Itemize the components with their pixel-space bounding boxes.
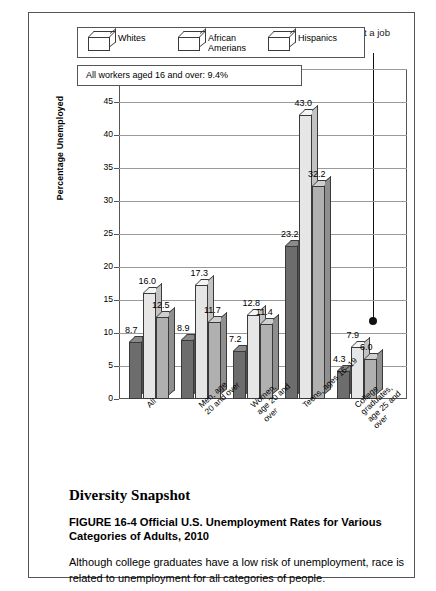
y-axis-tick-label: 45 bbox=[93, 96, 113, 106]
gridline bbox=[119, 102, 407, 103]
cube-side-face bbox=[290, 28, 296, 47]
section-title: Diversity Snapshot bbox=[69, 487, 429, 504]
y-axis-tick bbox=[114, 333, 119, 334]
bar-front-face bbox=[247, 315, 260, 399]
legend-swatch-cube bbox=[88, 37, 110, 51]
y-axis-tick bbox=[114, 300, 119, 301]
bar: 8.7 bbox=[129, 342, 142, 399]
overall-rate-note: All workers aged 16 and over: 9.4% bbox=[77, 65, 302, 86]
y-axis-tick-label: 40 bbox=[93, 129, 113, 139]
figure-title: FIGURE 16-4 Official U.S. Unemployment R… bbox=[69, 515, 429, 543]
gridline bbox=[119, 135, 407, 136]
y-axis-tick bbox=[114, 267, 119, 268]
y-axis-title: Percentage Unemployed bbox=[55, 88, 65, 208]
bar-value-label: 11.4 bbox=[256, 307, 273, 317]
bar-value-label: 17.3 bbox=[191, 268, 209, 278]
chart-legend: WhitesAfrican AmeriansHispanics bbox=[77, 27, 365, 58]
gridline bbox=[119, 234, 407, 235]
y-axis-tick-label: 10 bbox=[93, 327, 113, 337]
bar: 23.2 bbox=[285, 246, 298, 399]
cube-side-face bbox=[200, 28, 206, 47]
figure-body-text: Although college graduates have a low ri… bbox=[69, 555, 429, 586]
bar-value-label: 6.0 bbox=[360, 342, 373, 352]
cube-front-face bbox=[268, 37, 290, 51]
gridline bbox=[119, 201, 407, 202]
y-axis-tick-label: 5 bbox=[93, 360, 113, 370]
plot-area: 05101520253035404550 8.716.012.58.917.31… bbox=[119, 69, 407, 399]
bar-value-label: 16.0 bbox=[139, 276, 157, 286]
bar-front-face bbox=[129, 342, 142, 399]
bar-front-face bbox=[312, 186, 325, 399]
y-axis-tick bbox=[114, 102, 119, 103]
bar-side-face bbox=[169, 306, 175, 394]
bar-side-face bbox=[325, 176, 331, 394]
y-axis-tick-label: 35 bbox=[93, 162, 113, 172]
bar: 43.0 bbox=[299, 115, 312, 399]
y-axis-tick bbox=[114, 366, 119, 367]
bar: 12.5 bbox=[156, 317, 169, 400]
bar-front-face bbox=[181, 340, 194, 399]
y-axis-tick bbox=[114, 201, 119, 202]
y-axis-tick-label: 0 bbox=[93, 393, 113, 403]
bar-value-label: 7.2 bbox=[229, 334, 242, 344]
bar-front-face bbox=[195, 285, 208, 399]
legend-swatch-cube bbox=[268, 37, 290, 51]
bar-value-label: 11.7 bbox=[204, 305, 221, 315]
legend-label: Hispanics bbox=[298, 33, 337, 43]
bar-front-face bbox=[285, 246, 298, 399]
bar-value-label: 12.5 bbox=[152, 300, 170, 310]
legend-label: Whites bbox=[118, 33, 146, 43]
cube-side-face bbox=[110, 28, 116, 47]
y-axis-tick bbox=[114, 399, 119, 400]
y-axis-tick-label: 15 bbox=[93, 294, 113, 304]
cube-front-face bbox=[178, 37, 200, 51]
bar-value-label: 7.9 bbox=[347, 330, 360, 340]
y-axis-tick bbox=[114, 135, 119, 136]
y-axis-tick bbox=[114, 168, 119, 169]
y-axis-tick-label: 30 bbox=[93, 195, 113, 205]
caption-block: Diversity Snapshot FIGURE 16-4 Official … bbox=[69, 487, 429, 586]
gridline bbox=[119, 267, 407, 268]
bar-front-face bbox=[156, 317, 169, 400]
bar: 17.3 bbox=[195, 285, 208, 399]
legend-label: African Amerians bbox=[208, 33, 246, 54]
bar-front-face bbox=[299, 115, 312, 399]
y-axis-tick-label: 25 bbox=[93, 228, 113, 238]
unemployment-bar-chart: Percentage Unemployed 051015202530354045… bbox=[59, 58, 415, 458]
bar-value-label: 23.2 bbox=[281, 229, 299, 239]
bar-value-label: 32.2 bbox=[308, 169, 326, 179]
y-axis-tick bbox=[114, 234, 119, 235]
legend-swatch-cube bbox=[178, 37, 200, 51]
cube-front-face bbox=[88, 37, 110, 51]
bar-value-label: 8.7 bbox=[125, 325, 138, 335]
bar: 32.2 bbox=[312, 186, 325, 399]
y-axis-tick-label: 20 bbox=[93, 261, 113, 271]
gridline bbox=[119, 168, 407, 169]
bar-value-label: 8.9 bbox=[177, 323, 190, 333]
bar: 8.9 bbox=[181, 340, 194, 399]
figure-card: • The best strategy to reduce your risk … bbox=[28, 12, 415, 578]
bar: 12.8 bbox=[247, 315, 260, 399]
bar-value-label: 43.0 bbox=[295, 98, 313, 108]
